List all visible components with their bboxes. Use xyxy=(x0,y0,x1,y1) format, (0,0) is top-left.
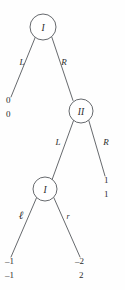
edge-root-right xyxy=(52,37,73,100)
terminal-payoff-bottom-right: –2 2 xyxy=(74,256,84,280)
game-tree-diagram: L R L R ℓ r I II I 0 0 1 1 xyxy=(0,0,125,290)
edge-node3-left xyxy=(11,197,37,257)
edge-label-node2-right: R xyxy=(102,137,109,147)
payoff-t3-player2: –1 xyxy=(4,270,14,280)
terminal-payoff-bottom-left: –1 –1 xyxy=(4,256,14,280)
payoff-t4-player1: –2 xyxy=(74,256,84,266)
node-two[interactable]: II xyxy=(69,99,93,123)
payoff-t4-player2: 2 xyxy=(79,270,84,280)
edge-node2-right xyxy=(89,121,105,177)
edge-node3-right xyxy=(54,198,80,257)
payoff-t2-player2: 1 xyxy=(104,189,109,199)
payoff-t3-player1: –1 xyxy=(4,256,14,266)
edge-label-root-left: L xyxy=(18,57,24,67)
edges-group xyxy=(11,37,105,257)
payoff-t1-player1: 0 xyxy=(6,95,11,105)
edge-node2-left xyxy=(52,120,74,179)
node-two-label: II xyxy=(77,107,85,117)
node-root[interactable]: I xyxy=(30,14,56,40)
edge-label-node3-left: ℓ xyxy=(19,209,24,221)
payoff-t2-player1: 1 xyxy=(104,175,109,185)
terminal-payoff-left-top: 0 0 xyxy=(6,95,11,119)
node-three[interactable]: I xyxy=(33,177,57,201)
edge-label-node2-left: L xyxy=(54,137,60,147)
edge-label-root-right: R xyxy=(60,57,67,67)
edge-root-left xyxy=(11,37,35,97)
edge-labels-group: L R L R ℓ r xyxy=(18,57,109,221)
terminal-payoff-right: 1 1 xyxy=(104,175,109,199)
game-tree-canvas: L R L R ℓ r I II I 0 0 1 1 xyxy=(0,0,125,290)
payoff-t1-player2: 0 xyxy=(6,109,11,119)
edge-label-node3-right: r xyxy=(66,212,70,221)
